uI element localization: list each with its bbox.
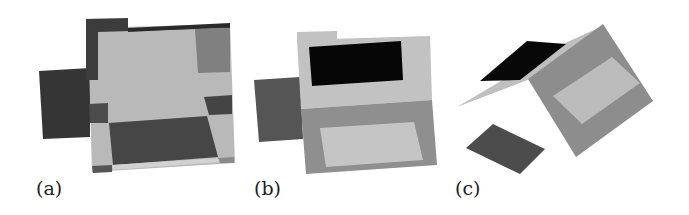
bottom-flap xyxy=(466,124,545,174)
left-dark-block xyxy=(89,103,108,123)
bottom-left-block xyxy=(92,165,112,173)
left-flap xyxy=(254,77,303,142)
panel-a-label: (a) xyxy=(36,177,62,199)
panel-b: (b) xyxy=(230,0,450,215)
right-dark-block xyxy=(204,95,232,115)
panel-c: (c) xyxy=(440,0,689,215)
inner-panel xyxy=(320,122,423,167)
black-lid xyxy=(309,41,403,86)
panel-b-label: (b) xyxy=(254,177,281,199)
bottom-band xyxy=(109,116,218,165)
left-flap xyxy=(39,68,90,139)
panel-a: (a) xyxy=(0,0,240,215)
top-right-block xyxy=(195,28,230,73)
panel-c-label: (c) xyxy=(455,177,480,199)
